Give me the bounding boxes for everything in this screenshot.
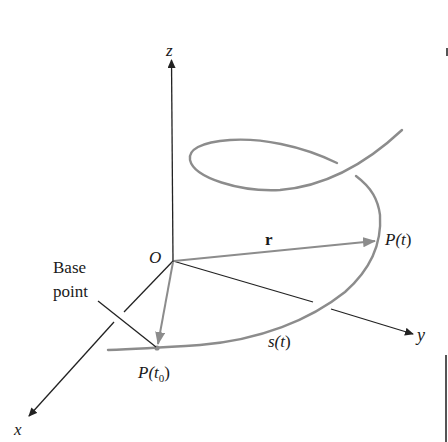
z-axis-label: z — [166, 42, 173, 59]
point-t0-suffix: ) — [164, 363, 170, 382]
base-point-pointer — [98, 301, 156, 347]
point-t-suffix: ) — [406, 230, 412, 249]
point-t-label: P(t) — [385, 231, 411, 248]
z-axis — [172, 60, 174, 261]
point-t-prefix: P( — [385, 230, 401, 249]
x-axis — [29, 261, 173, 416]
vector-r — [174, 241, 375, 261]
point-t0-label: P(t0) — [138, 364, 170, 384]
space-curve-diagram: z x y O r P(t) P(t0) s(t) Base point — [0, 0, 448, 442]
y-axis-label: y — [417, 326, 425, 344]
arc-length-prefix: s( — [268, 332, 280, 351]
vector-r-label: r — [265, 231, 273, 248]
point-t0-prefix: P( — [138, 363, 154, 382]
base-point-label-line2: point — [53, 283, 88, 300]
x-axis-label: x — [14, 421, 22, 438]
base-point-label-line1: Base — [53, 259, 86, 276]
diagram-svg — [0, 0, 448, 442]
arc-length-label: s(t) — [268, 333, 291, 350]
origin-label: O — [149, 249, 161, 266]
arc-length-suffix: ) — [285, 332, 291, 351]
